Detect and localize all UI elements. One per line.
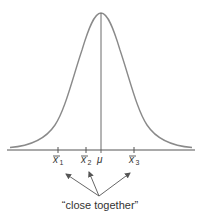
- svg-text:3: 3: [136, 159, 140, 166]
- svg-text:1: 1: [60, 159, 64, 166]
- svg-text:x: x: [128, 154, 135, 165]
- arrow-to-x3: [99, 173, 130, 196]
- label-xbar-1: x 1: [52, 154, 64, 166]
- annotation-close-together: “close together”: [62, 199, 139, 211]
- sampling-distribution-diagram: x 1 x 2 μ x 3 “close together”: [0, 0, 198, 215]
- svg-text:2: 2: [88, 159, 92, 166]
- label-xbar-3: x 3: [128, 154, 140, 166]
- svg-text:x: x: [80, 154, 87, 165]
- label-xbar-2: x 2: [80, 154, 92, 166]
- label-mu: μ: [96, 154, 103, 165]
- svg-text:x: x: [52, 154, 59, 165]
